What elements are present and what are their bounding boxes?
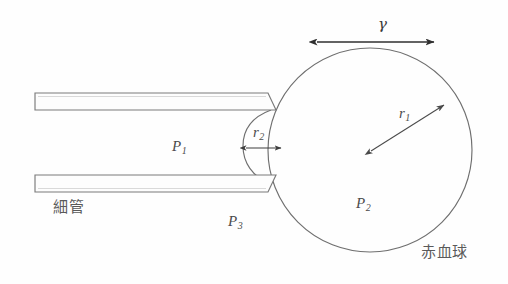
label-r2-base: r — [253, 124, 259, 140]
label-r2: r2 — [253, 125, 264, 142]
label-r1: r1 — [399, 106, 410, 123]
capillary-tube-lower-wall — [35, 175, 276, 192]
label-p2-subscript: 2 — [366, 202, 371, 213]
label-r2-subscript: 2 — [259, 131, 264, 142]
label-p1: P1 — [172, 139, 187, 156]
label-r1-subscript: 1 — [405, 112, 410, 123]
label-p1-subscript: 1 — [182, 145, 187, 156]
label-p3-subscript: 3 — [238, 220, 243, 231]
figure-container: γ r1 r2 P1 P2 P3 細管 赤血球 — [0, 0, 508, 284]
label-p3: P3 — [228, 214, 243, 231]
label-p2: P2 — [356, 196, 371, 213]
label-p3-base: P — [228, 213, 237, 229]
label-r1-base: r — [399, 105, 405, 121]
meniscus-arc — [243, 110, 271, 184]
label-p2-base: P — [356, 195, 365, 211]
red-blood-cell-circle — [268, 48, 472, 252]
label-capillary-tube: 細管 — [53, 200, 84, 215]
capillary-tube-upper-wall — [35, 93, 276, 110]
label-p1-base: P — [172, 138, 181, 154]
label-red-blood-cell: 赤血球 — [421, 245, 468, 260]
diagram-canvas — [0, 0, 508, 284]
label-gamma: γ — [378, 17, 387, 32]
